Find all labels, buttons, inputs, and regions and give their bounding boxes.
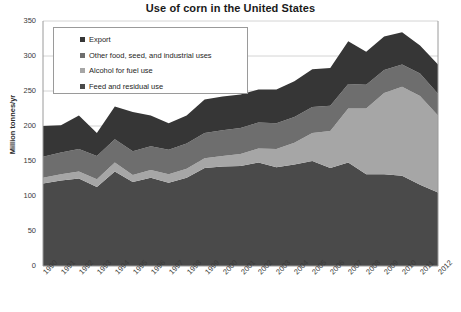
legend-swatch-icon xyxy=(80,37,85,42)
y-tick-label: 200 xyxy=(8,121,36,130)
legend-item[interactable]: Export xyxy=(54,32,247,48)
y-tick-label: 250 xyxy=(8,86,36,95)
y-tick-label: 150 xyxy=(8,156,36,165)
chart-legend: ExportOther food, seed, and industrial u… xyxy=(53,27,248,94)
legend-item[interactable]: Other food, seed, and industrial uses xyxy=(54,48,247,64)
y-tick-label: 300 xyxy=(8,51,36,60)
legend-item-label: Other food, seed, and industrial uses xyxy=(89,51,212,60)
legend-swatch-icon xyxy=(80,84,85,89)
legend-item-label: Alcohol for fuel use xyxy=(89,66,153,75)
y-tick-label: 350 xyxy=(8,16,36,25)
legend-swatch-icon xyxy=(80,68,85,73)
legend-item-label: Feed and residual use xyxy=(89,82,163,91)
y-tick-label: 100 xyxy=(8,191,36,200)
legend-item[interactable]: Feed and residual use xyxy=(54,79,247,95)
legend-item[interactable]: Alcohol for fuel use xyxy=(54,63,247,79)
y-tick-label: 0 xyxy=(8,261,36,270)
legend-item-label: Export xyxy=(89,35,111,44)
y-tick-label: 50 xyxy=(8,226,36,235)
legend-swatch-icon xyxy=(80,53,85,58)
chart-container: Use of corn in the United States Million… xyxy=(0,0,461,312)
